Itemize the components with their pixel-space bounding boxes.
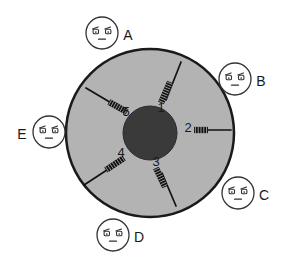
face-a[interactable]: A	[86, 17, 133, 49]
needle-number-label: 4	[117, 145, 124, 160]
face-letter-label: C	[259, 187, 269, 203]
needle-number-label: 3	[152, 154, 159, 169]
face-outline	[33, 116, 65, 148]
face-b[interactable]: B	[219, 63, 266, 95]
eye-pupil	[107, 31, 109, 33]
face-letter-label: E	[17, 126, 26, 142]
face-letter-label: D	[134, 229, 144, 245]
face-outline	[86, 17, 118, 49]
face-d[interactable]: D	[97, 219, 144, 251]
main-disk-group[interactable]	[66, 49, 234, 217]
face-outline	[97, 219, 129, 251]
eye-pupil	[118, 233, 120, 235]
eye-pupil	[228, 77, 230, 79]
needle-number-label: 2	[184, 120, 191, 135]
eye-pupil	[231, 191, 233, 193]
needle-number-label: 5	[122, 104, 129, 119]
eye-pupil	[54, 130, 56, 132]
eye-pupil	[106, 233, 108, 235]
face-e[interactable]: E	[17, 116, 65, 148]
face-letter-label: A	[123, 27, 133, 43]
eye-pupil	[243, 191, 245, 193]
center-hub[interactable]	[123, 106, 177, 160]
face-c[interactable]: C	[222, 177, 269, 209]
eye-pupil	[240, 77, 242, 79]
disk-diagram-svg: 12345 ABCDE	[0, 0, 287, 267]
needle-number-label: 1	[157, 100, 164, 115]
eye-pupil	[95, 31, 97, 33]
diagram-canvas: 12345 ABCDE	[0, 0, 287, 267]
face-outline	[222, 177, 254, 209]
face-letter-label: B	[256, 73, 265, 89]
eye-pupil	[42, 130, 44, 132]
face-outline	[219, 63, 251, 95]
